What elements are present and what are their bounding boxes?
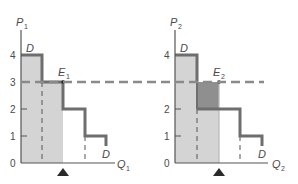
left-tick-label-3: 3	[10, 77, 16, 88]
right-tick-label-4: 4	[164, 50, 170, 61]
left-tick-label-0: 0	[10, 158, 16, 169]
left-tick-label-4: 4	[10, 50, 16, 61]
right-demand-label-bottom: D	[258, 148, 266, 160]
left-y-axis-label: P	[16, 16, 24, 28]
right-y-axis-label: P	[170, 16, 178, 28]
left-panel: 0 1 2 3 4 P 1 Q 1 D D E 1	[10, 16, 130, 176]
right-x-axis-sub: 2	[281, 165, 285, 172]
right-dark-shaded-area	[197, 82, 219, 109]
left-shaded-area-step2	[42, 82, 63, 163]
left-y-axis-sub: 1	[24, 23, 28, 30]
left-x-axis-label: Q	[117, 158, 126, 170]
right-equilibrium-sub: 2	[221, 73, 225, 80]
right-quantity-marker-icon	[213, 168, 225, 176]
right-tick-label-0: 0	[164, 158, 170, 169]
left-equilibrium-sub: 1	[66, 73, 70, 80]
left-demand-label-bottom: D	[102, 148, 110, 160]
left-tick-label-1: 1	[10, 131, 16, 142]
right-x-axis-label: Q	[272, 158, 281, 170]
left-tick-label-2: 2	[10, 104, 16, 115]
left-equilibrium-label: E	[58, 66, 66, 78]
right-y-axis-sub: 2	[178, 23, 182, 30]
left-x-axis-sub: 1	[126, 165, 130, 172]
right-panel: 0 1 2 4 P 2 Q 2 D D E 2	[164, 16, 285, 176]
two-market-demand-diagram: 0 1 2 3 4 P 1 Q 1 D D E 1	[0, 0, 298, 184]
right-tick-label-1: 1	[164, 131, 170, 142]
right-demand-label-top: D	[180, 42, 188, 54]
right-tick-label-2: 2	[164, 104, 170, 115]
right-shaded-area-step2	[197, 109, 219, 163]
left-demand-label-top: D	[26, 42, 34, 54]
right-equilibrium-label: E	[213, 66, 221, 78]
left-quantity-marker-icon	[57, 168, 69, 176]
